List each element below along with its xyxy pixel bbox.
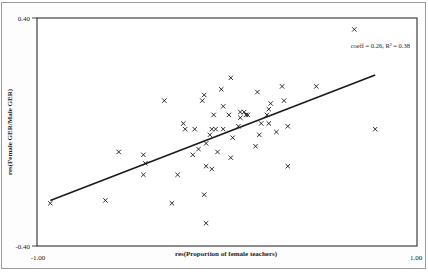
y-axis-title: res(Female GER/Male GER) <box>6 88 14 175</box>
scatter-chart: 0.40 -0.40 -1.00 1.00 res(Proportion of … <box>0 0 428 272</box>
x-tick-label-right: 1.00 <box>410 254 423 262</box>
y-tick-label-top: 0.40 <box>18 15 31 23</box>
regression-annotation: coeff = 0.26, R² = 0.38 <box>351 42 410 49</box>
y-tick-label-bottom: -0.40 <box>15 243 30 251</box>
x-axis-title: res(Proportion of female teachers) <box>175 250 278 258</box>
x-tick-label-left: -1.00 <box>31 254 46 262</box>
